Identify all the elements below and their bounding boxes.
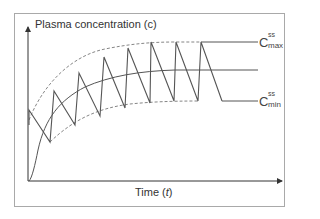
x-axis-label-suffix: )	[169, 186, 173, 198]
cmin-base: C	[259, 94, 268, 109]
y-axis-label: Plasma concentration (c)	[35, 18, 157, 30]
cmin-superscript: ss	[268, 90, 275, 97]
cmax-subscript: max	[268, 42, 283, 50]
x-axis-label-prefix: Time (	[135, 186, 166, 198]
cmin-subscript: min	[268, 101, 281, 109]
sawtooth-curve	[29, 42, 222, 142]
cmax-base: C	[259, 35, 268, 50]
cmax-superscript: ss	[268, 31, 275, 38]
x-axis-label: Time (t)	[135, 186, 173, 198]
cmin-annotation: C ss min	[259, 95, 268, 108]
cmax-annotation: C ss max	[259, 36, 268, 49]
